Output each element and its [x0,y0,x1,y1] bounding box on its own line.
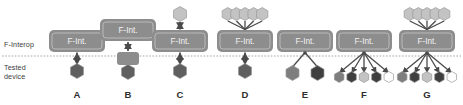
fint-box-label-C: F-Int. [170,37,189,46]
fan-hub-F [362,51,366,55]
fint-box-B[interactable]: F-Int. [100,19,156,41]
intermediate-box-B[interactable] [117,52,139,65]
bottom-hex-A-1 [71,64,84,79]
column-letter-G: G [414,89,440,100]
fint-box-label-A: F-Int. [67,37,86,46]
column-E: F-Int. [277,30,333,81]
column-letter-B: B [115,89,141,100]
column-B: F-Int. [100,19,156,80]
connector-top-G-1 [410,21,427,30]
fint-box-label-F: F-Int. [354,37,373,46]
bottom-hex-D-1 [239,64,252,79]
bottom-hex-E-1 [286,66,299,81]
bottom-hex-G-2 [410,72,420,83]
top-node-group-D [222,8,268,30]
column-letter-D: D [232,89,258,100]
bottom-node-group-F [334,51,393,82]
bottom-node-group-E [286,51,324,80]
bottom-node-group-B [122,65,135,80]
bottom-hex-E-2 [311,66,324,81]
column-letter-C: C [167,89,193,100]
fan-hub-G [425,51,429,55]
top-node-group-C [174,7,187,30]
fint-box-D[interactable]: F-Int. [217,30,273,52]
bottom-hex-F-3 [359,72,369,83]
top-hex-C-1 [174,7,187,22]
column-letter-F: F [351,89,377,100]
connector-bottom-E-1 [293,53,306,68]
fint-box-label-E: F-Int. [295,37,314,46]
connector-bottom-E-2 [305,53,318,68]
bottom-hex-F-2 [347,72,357,83]
fint-box-A[interactable]: F-Int. [49,30,105,52]
column-C: F-Int. [152,7,208,79]
bottom-hex-B-1 [122,65,135,80]
bottom-hex-F-1 [334,72,344,83]
connector-top-G-5 [427,21,444,30]
bottom-hex-F-4 [372,72,382,83]
fint-box-C[interactable]: F-Int. [152,30,208,52]
intermediate-box-rect-B [117,52,139,65]
bottom-hex-F-5 [384,72,394,83]
bottom-hex-G-4 [435,72,445,83]
column-G: F-Int. [397,8,456,83]
fint-box-G[interactable]: F-Int. [399,30,455,52]
fint-box-label-G: F-Int. [417,37,436,46]
bottom-hex-G-3 [422,72,432,83]
fan-hub-E [303,51,307,55]
bottom-hex-G-1 [397,72,407,83]
column-F: F-Int. [334,30,393,83]
top-hex-G-5 [439,8,450,21]
fint-box-label-B: F-Int. [118,26,137,35]
fint-box-F[interactable]: F-Int. [336,30,392,52]
bottom-hex-G-5 [447,72,457,83]
axis-label-tested-device: Tested device [4,63,26,81]
column-letter-A: A [64,89,90,100]
connector-bottom-G-2 [415,53,427,74]
connector-top-D-5 [245,21,262,30]
top-hex-D-5 [257,8,268,21]
fint-box-label-D: F-Int. [235,37,254,46]
diagram-canvas: F-Int.F-Int.F-Int.F-Int.F-Int.F-Int.F-In… [0,0,463,105]
fint-box-E[interactable]: F-Int. [277,30,333,52]
top-node-group-G [404,8,450,30]
connector-top-D-1 [228,21,245,30]
axis-label-f-interop: F-Interop [4,40,34,49]
column-D: F-Int. [217,8,273,79]
column-A: F-Int. [49,30,105,79]
column-letter-E: E [292,89,318,100]
bottom-hex-C-1 [174,64,187,79]
